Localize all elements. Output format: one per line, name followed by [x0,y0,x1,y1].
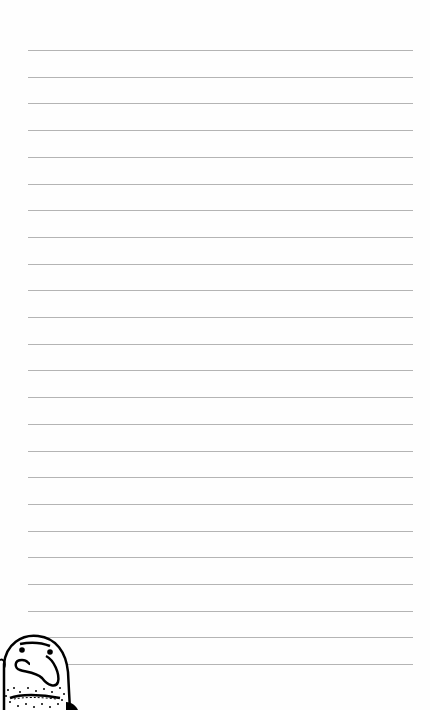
ruled-line [28,264,413,265]
ruled-line [28,531,413,532]
notebook-page [0,0,430,710]
ruled-line [28,103,413,104]
ruled-line [28,237,413,238]
ruled-line [28,557,413,558]
ruled-line [28,370,413,371]
ruled-line [28,477,413,478]
ruled-line [28,397,413,398]
ruled-line [28,210,413,211]
ruled-line [28,290,413,291]
cartoon-face-icon [0,630,90,710]
ruled-line [28,317,413,318]
ruled-line [28,504,413,505]
ruled-line [28,451,413,452]
ruled-line [28,584,413,585]
ruled-line [28,77,413,78]
ruled-line [28,50,413,51]
ruled-line [28,130,413,131]
ruled-line [28,157,413,158]
ruled-line [28,184,413,185]
ruled-line [28,611,413,612]
ruled-line [28,344,413,345]
ruled-line [28,424,413,425]
